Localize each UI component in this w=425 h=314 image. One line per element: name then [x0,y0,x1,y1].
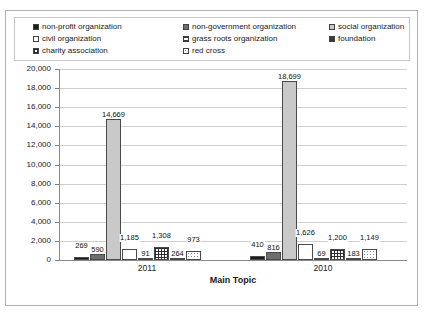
bar-value-label: 69 [316,250,326,258]
legend-row: charity association red cross [33,45,407,56]
chart-container: non-profit organization non-government o… [5,10,418,306]
bar-2010-charity-association[interactable]: 183 [346,258,361,260]
legend-label: grass roots organization [192,34,277,43]
bar-2010-civil-organization[interactable]: 1,626 [298,244,313,260]
bar-2011-grass-roots-organization[interactable]: 91 [138,258,153,260]
legend-swatch-icon [329,36,335,42]
legend-row: civil organization grass roots organizat… [33,33,407,44]
legend-swatch-icon [183,48,189,54]
legend-label: civil organization [42,34,101,43]
bar-value-label: 1,149 [359,234,380,242]
bar-2010-non-profit-organization[interactable]: 410 [250,256,265,260]
legend-swatch-icon [33,24,39,30]
bar-value-label: 91 [140,250,150,258]
bar-2011-red-cross[interactable]: 973 [186,251,201,260]
bar-2011-charity-association[interactable]: 264 [170,258,185,261]
y-tick-label: 12,000 [27,141,51,149]
bar-value-label: 1,308 [151,232,172,240]
legend-item-non-profit-organization: non-profit organization [33,22,183,31]
bar-value-label: 269 [74,242,89,250]
legend-swatch-icon [33,36,39,42]
bar-value-label: 973 [186,236,201,244]
legend-label: red cross [192,46,225,55]
bars-layer: 269 590 14,669 1,185 91 1,308 [60,68,407,260]
y-tick-label: 2,000 [31,237,51,245]
legend-label: charity association [42,46,108,55]
y-tick-label: 4,000 [31,218,51,226]
legend-label: social organization [338,22,404,31]
bar-group-2010: 410 816 18,699 1,626 69 1,200 [250,68,378,260]
bar-value-label: 14,669 [101,111,126,119]
y-tick-label: 10,000 [27,161,51,169]
bar-value-label: 1,185 [119,234,140,242]
bar-2011-foundation[interactable]: 1,308 [154,247,169,260]
legend-row: non-profit organization non-government o… [33,21,407,32]
y-tick-label: 16,000 [27,103,51,111]
legend-item-civil-organization: civil organization [33,34,183,43]
bar-2010-grass-roots-organization[interactable]: 69 [314,258,329,260]
x-axis-title: Main Topic [59,275,407,286]
bar-2011-civil-organization[interactable]: 1,185 [122,249,137,260]
bar-value-label: 816 [266,244,281,252]
legend-swatch-icon [183,36,189,42]
bar-value-label: 18,699 [277,73,302,81]
bar-value-label: 183 [346,250,361,258]
legend-item-social-organization: social organization [329,22,404,31]
bar-value-label: 1,626 [295,229,316,237]
legend-label: foundation [338,34,375,43]
y-tick-label: 0 [47,256,51,264]
bar-2011-non-profit-organization[interactable]: 269 [74,257,89,260]
bar-2010-red-cross[interactable]: 1,149 [362,249,377,260]
bar-value-label: 590 [90,246,105,254]
bar-2010-foundation[interactable]: 1,200 [330,249,345,261]
x-tick-label-2010: 2010 [314,263,333,273]
plot-wrapper: 20,000 18,000 16,000 14,000 12,000 10,00… [14,69,410,274]
legend-item-red-cross: red cross [183,46,329,55]
y-tick-label: 18,000 [27,84,51,92]
legend-swatch-icon [33,48,39,54]
y-tick-label: 6,000 [31,199,51,207]
y-tick-label: 20,000 [27,65,51,73]
legend-label: non-profit organization [42,22,122,31]
legend-swatch-icon [183,24,189,30]
legend-item-charity-association: charity association [33,46,183,55]
y-tick-label: 8,000 [31,180,51,188]
y-tick-label: 14,000 [27,122,51,130]
bar-2010-non-government-organization[interactable]: 816 [266,252,281,260]
legend-swatch-icon [329,24,335,30]
bar-value-label: 264 [170,250,185,258]
chart-legend: non-profit organization non-government o… [14,17,410,61]
bar-2011-non-government-organization[interactable]: 590 [90,254,105,260]
legend-item-non-government-organization: non-government organization [183,22,329,31]
y-axis-labels: 20,000 18,000 16,000 14,000 12,000 10,00… [14,69,54,261]
x-tick-label-2011: 2011 [138,263,156,273]
plot-area: 269 590 14,669 1,185 91 1,308 [59,69,407,261]
legend-label: non-government organization [192,22,296,31]
bar-group-2011: 269 590 14,669 1,185 91 1,308 [74,68,202,260]
bar-value-label: 410 [250,241,265,249]
legend-item-grass-roots-organization: grass roots organization [183,34,329,43]
legend-item-foundation: foundation [329,34,375,43]
bar-value-label: 1,200 [327,234,348,242]
